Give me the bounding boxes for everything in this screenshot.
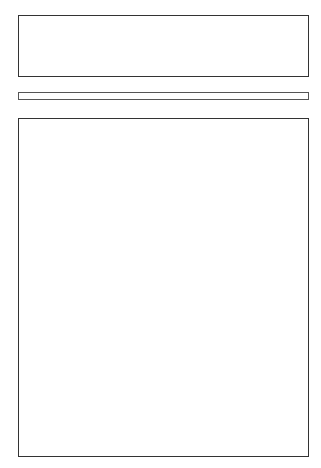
- move-down-arrow-icon[interactable]: [9, 104, 17, 116]
- move-up-arrow-icon[interactable]: [9, 82, 17, 94]
- top-tile-row: [18, 15, 309, 77]
- separator-bar: [18, 92, 309, 100]
- tile-grid: [18, 118, 309, 457]
